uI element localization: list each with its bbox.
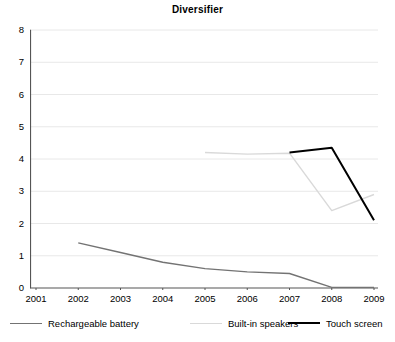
legend-label: Touch screen	[326, 318, 383, 329]
legend-swatch-line-icon	[190, 323, 222, 324]
legend-item-2[interactable]: Touch screen	[288, 316, 383, 330]
y-tick-label: 6	[4, 90, 24, 100]
chart-legend: Rechargeable batteryBuilt-in speakersTou…	[0, 316, 395, 336]
legend-divider	[4, 312, 391, 313]
x-tick-label: 2001	[19, 293, 53, 305]
y-tick-label: 0	[4, 283, 24, 293]
x-tick-label: 2004	[146, 293, 180, 305]
y-axis-tick-labels: 012345678	[2, 28, 24, 290]
legend-item-0[interactable]: Rechargeable battery	[10, 316, 139, 330]
series-line-1	[205, 153, 374, 211]
y-tick-label: 8	[4, 25, 24, 35]
chart-title: Diversifier	[0, 4, 395, 15]
x-axis-tick-labels: 200120022003200420052006200720082009	[30, 293, 378, 307]
x-tick-label: 2005	[188, 293, 222, 305]
y-tick-label: 5	[4, 122, 24, 132]
legend-label: Rechargeable battery	[48, 318, 139, 329]
chart-container: Diversifier 012345678 200120022003200420…	[0, 0, 395, 342]
x-tick-label: 2002	[61, 293, 95, 305]
y-tick-label: 1	[4, 251, 24, 261]
x-tick-label: 2009	[357, 293, 391, 305]
y-tick-label: 7	[4, 57, 24, 67]
y-tick-label: 4	[4, 154, 24, 164]
y-tick-label: 3	[4, 186, 24, 196]
series-line-0	[78, 243, 374, 288]
plot-area	[30, 28, 378, 290]
x-tick-label: 2007	[273, 293, 307, 305]
legend-swatch-line-icon	[10, 323, 42, 324]
legend-swatch-line-icon	[288, 322, 320, 324]
x-tick-label: 2008	[315, 293, 349, 305]
y-tick-label: 2	[4, 219, 24, 229]
x-tick-label: 2003	[104, 293, 138, 305]
chart-svg	[30, 28, 378, 290]
x-tick-label: 2006	[230, 293, 264, 305]
legend-item-1[interactable]: Built-in speakers	[190, 316, 298, 330]
